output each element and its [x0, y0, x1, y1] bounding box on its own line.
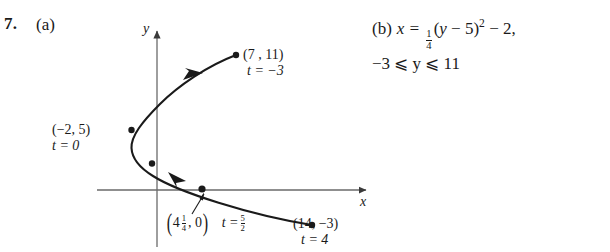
mixed-number-four-and-quarter: 414 [173, 214, 188, 233]
fraction-numerator: 1 [425, 29, 432, 40]
x-intercept-param-prefix: t = [222, 215, 239, 231]
point-7-11-label: (7 , 11) t = −3 [243, 47, 284, 79]
point-x-intercept-label: (414, 0) t =52 [166, 210, 247, 236]
mixed-whole-part: 4 [173, 215, 180, 231]
point-neg2-5-label: (−2, 5) t = 0 [52, 122, 90, 154]
minus-two-tail: − 2, [485, 19, 516, 38]
point-on-y-axis-dot [149, 160, 155, 166]
x-intercept-param-fraction: 52 [240, 214, 246, 233]
point-7-11-coords: (7 , 11) [243, 47, 283, 62]
parametric-curve [131, 55, 312, 225]
one-quarter-fraction: 14 [425, 29, 432, 52]
parametric-curve-graph: y x (7 , 11) t = −3 (−2, 5) t = 0 (414, … [0, 0, 400, 252]
textbook-answer-figure: 7. (a) (b)x = 14(y − 5)2 − 2, −3 ⩽ y ⩽ 1… [0, 0, 610, 252]
fraction-denominator: 4 [426, 40, 431, 52]
x-intercept-y-value: , 0 [188, 215, 202, 231]
minus-five-paren: − 5) [447, 19, 479, 38]
point-neg2-5-dot [128, 127, 134, 133]
point-neg2-5-coords: (−2, 5) [52, 122, 90, 137]
y-axis-label: y [143, 21, 149, 37]
point-14-neg3-coords: (14, −3) [293, 216, 338, 231]
point-14-neg3-label: (14, −3) t = 4 [293, 216, 338, 248]
variable-y: y [439, 19, 447, 38]
mixed-fraction-denominator: 4 [182, 223, 186, 233]
point-7-11-param: t = −3 [247, 63, 284, 79]
param-fraction-denominator: 2 [241, 223, 245, 233]
big-paren-open: ( [167, 210, 172, 236]
param-fraction-numerator: 5 [240, 214, 246, 223]
point-14-neg3-param: t = 4 [301, 232, 338, 248]
point-x-intercept-dot [198, 185, 205, 192]
part-b-equation-lhs: x = [397, 19, 425, 38]
x-axis-label: x [360, 194, 366, 210]
mixed-fraction: 14 [181, 214, 187, 233]
point-7-11-dot [233, 52, 239, 58]
point-neg2-5-param: t = 0 [52, 138, 90, 154]
big-paren-close: ) [203, 210, 208, 236]
mixed-fraction-numerator: 1 [181, 214, 187, 223]
